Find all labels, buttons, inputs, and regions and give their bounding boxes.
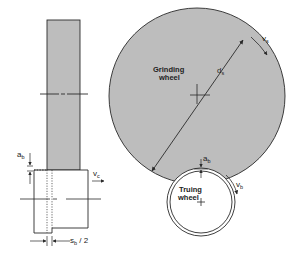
width-label: sb / 2 — [70, 236, 89, 246]
grinding-speed-label: vs — [262, 34, 269, 44]
side-view: ab vc sb / 2 — [17, 20, 104, 246]
front-view: Grinding wheel ds vs Truing wheel vb ab — [109, 8, 285, 236]
feed-velocity-label: vc — [93, 169, 100, 179]
grinding-wheel-side — [47, 20, 80, 170]
grinding-wheel-label-2: wheel — [158, 73, 180, 82]
truing-diagram: ab vc sb / 2 Grinding wheel ds vs Truing… — [0, 0, 286, 253]
truing-speed-label: vb — [236, 180, 243, 190]
truing-wheel-label-2: wheel — [177, 193, 199, 202]
side-infeed-label: ab — [17, 150, 25, 160]
truing-wheel-side — [34, 170, 88, 233]
